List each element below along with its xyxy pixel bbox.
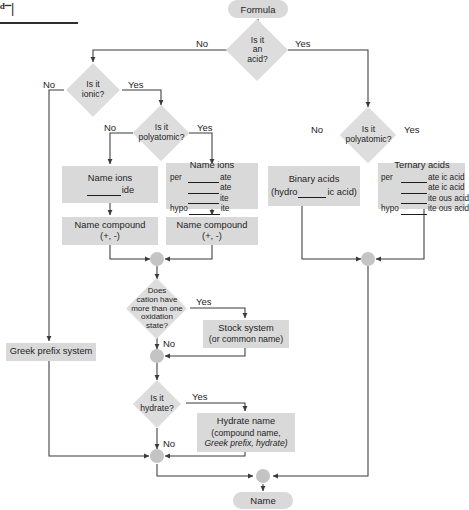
q-ionic-line2: ionic? <box>82 89 104 99</box>
q-oxid-line4: oxidation <box>141 312 173 321</box>
process-ternary-acids[interactable]: Ternary acids per ate ic acid ate ic aci… <box>378 163 465 209</box>
suffix-prefix: per <box>381 173 400 184</box>
stock-system-line2: (or common name) <box>209 334 283 345</box>
blank-line <box>189 206 220 215</box>
decision-is-it-hydrate-label: Is it hydrate? <box>140 394 173 413</box>
process-hydrate-name[interactable]: Hydrate name (compound name, Greek prefi… <box>197 413 295 452</box>
hydrate-name-line1: Hydrate name <box>217 416 275 427</box>
suffix-row: per ate ic acid <box>381 173 469 184</box>
suffix-prefix: per <box>170 173 187 184</box>
edge-label-poly-ionic-no: No <box>104 122 116 133</box>
suffix-row: ate <box>170 183 231 194</box>
edge-label-hydrate-yes: Yes <box>192 391 208 402</box>
decision-is-it-polyatomic-ionic[interactable]: Is it polyatomic? <box>125 105 198 161</box>
node-name[interactable]: Name <box>233 492 293 509</box>
q-poly-acid-line1: Is it <box>362 124 375 134</box>
node-formula-label: Formula <box>241 4 276 15</box>
blank-line <box>401 195 427 204</box>
decision-oxidation-state[interactable]: Does cation have more than one oxidation… <box>112 279 202 339</box>
edge-label-acid-yes: Yes <box>295 38 311 49</box>
name-ions-ide-suffix: ide <box>122 185 134 195</box>
suffix-row: ite ous acid <box>381 194 469 205</box>
q-oxid-line5: state? <box>146 321 168 330</box>
edge-label-poly-acid-no: No <box>311 124 323 135</box>
decision-is-it-ionic[interactable]: Is it ionic? <box>63 63 123 117</box>
q-oxid-line1: Does <box>148 286 167 295</box>
suffix-tail: ous acid <box>439 194 469 205</box>
decision-is-it-an-acid-label: Is it an acid? <box>247 36 268 65</box>
suffix-tail: ous acid <box>439 204 469 215</box>
q-ionic-line1: Is it <box>86 79 99 89</box>
q-acid-line1: Is it <box>251 35 264 45</box>
suffix-suffix: ite <box>221 204 230 215</box>
name-ions-ide-suffix-row: ide <box>86 185 134 196</box>
process-name-compound-left[interactable]: Name compound (+, -) <box>62 217 158 245</box>
name-ions-ide-title: Name ions <box>88 173 132 184</box>
stock-system-line1: Stock system <box>218 323 273 334</box>
blank-line <box>188 185 219 194</box>
decision-is-it-polyatomic-acid[interactable]: Is it polyatomic? <box>332 107 405 163</box>
decision-is-it-polyatomic-acid-label: Is it polyatomic? <box>346 125 392 144</box>
q-oxid-line2: cation have <box>137 295 178 304</box>
name-compound-left-line2: (+, -) <box>100 231 120 242</box>
process-stock-system[interactable]: Stock system (or common name) <box>203 320 289 348</box>
binary-acids-pre: (hydro <box>271 187 297 197</box>
blank-line <box>188 195 219 204</box>
edge-label-poly-acid-yes: Yes <box>404 124 420 135</box>
node-formula[interactable]: Formula <box>228 0 288 18</box>
suffix-suffix: ate <box>428 173 439 184</box>
q-hydrate-line1: Is it <box>150 393 163 403</box>
suffix-row: per ate <box>170 173 231 184</box>
edge-label-ionic-yes: Yes <box>128 79 144 90</box>
decision-is-it-an-acid[interactable]: Is it an acid? <box>228 28 287 72</box>
suffix-suffix: ite <box>428 204 437 215</box>
name-ions-poly-suffix-list: per ate ate ite hypo ite <box>170 173 231 215</box>
blank-line <box>401 174 427 183</box>
decision-is-it-hydrate[interactable]: Is it hydrate? <box>125 380 189 428</box>
suffix-suffix: ate <box>428 183 439 194</box>
suffix-suffix: ite <box>428 194 437 205</box>
process-binary-acids[interactable]: Binary acids (hydroic acid) <box>268 166 360 206</box>
process-name-ions-ide[interactable]: Name ions ide <box>62 166 158 203</box>
suffix-suffix: ite <box>220 194 229 205</box>
decision-is-it-polyatomic-ionic-label: Is it polyatomic? <box>139 123 185 142</box>
process-greek-prefix-system[interactable]: Greek prefix system <box>6 343 96 361</box>
q-acid-line2: an <box>253 44 263 54</box>
q-poly-acid-line2: polyatomic? <box>346 134 392 144</box>
edge-label-acid-no: No <box>196 38 208 49</box>
suffix-row: hypo ite <box>170 204 231 215</box>
node-name-label: Name <box>250 495 275 506</box>
edge-label-poly-ionic-yes: Yes <box>197 122 213 133</box>
ternary-acids-title: Ternary acids <box>381 160 463 171</box>
binary-acids-title: Binary acids <box>289 174 340 185</box>
suffix-row: ite <box>170 194 231 205</box>
edge-label-hydrate-no: No <box>163 438 175 449</box>
edge-label-ionic-no: No <box>43 79 55 90</box>
name-compound-right-line2: (+, -) <box>202 231 222 242</box>
blank-line <box>188 174 219 183</box>
q-poly-ionic-line1: Is it <box>155 122 168 132</box>
merge-node-final <box>256 469 270 483</box>
hydrate-name-line2: (compound name, <box>211 428 280 438</box>
binary-acids-post: ic acid) <box>327 187 356 197</box>
process-name-compound-right[interactable]: Name compound (+, -) <box>166 217 258 245</box>
blank-line <box>298 189 326 198</box>
suffix-tail: ic acid <box>441 173 464 184</box>
merge-node-ionic <box>150 252 164 266</box>
q-poly-ionic-line2: polyatomic? <box>139 132 185 142</box>
suffix-tail: ic acid <box>441 183 464 194</box>
merge-node-oxidation <box>150 349 164 363</box>
hydrate-name-line3: Greek prefix, hydrate) <box>204 438 287 448</box>
decision-is-it-ionic-label: Is it ionic? <box>82 80 104 99</box>
edge-label-oxidation-yes: Yes <box>196 296 212 307</box>
q-oxid-line3: more than one <box>131 304 183 313</box>
suffix-prefix: hypo <box>381 204 400 215</box>
process-name-ions-polyatomic[interactable]: Name ions per ate ate ite hypo ite <box>166 163 258 209</box>
greek-prefix-label: Greek prefix system <box>10 346 93 357</box>
blank-line <box>401 185 427 194</box>
ternary-acids-suffix-list: per ate ic acid ate ic acid ite ous acid… <box>381 173 469 215</box>
suffix-prefix: hypo <box>170 204 188 215</box>
suffix-row: hypo ite ous acid <box>381 204 469 215</box>
q-hydrate-line2: hydrate? <box>140 403 173 413</box>
